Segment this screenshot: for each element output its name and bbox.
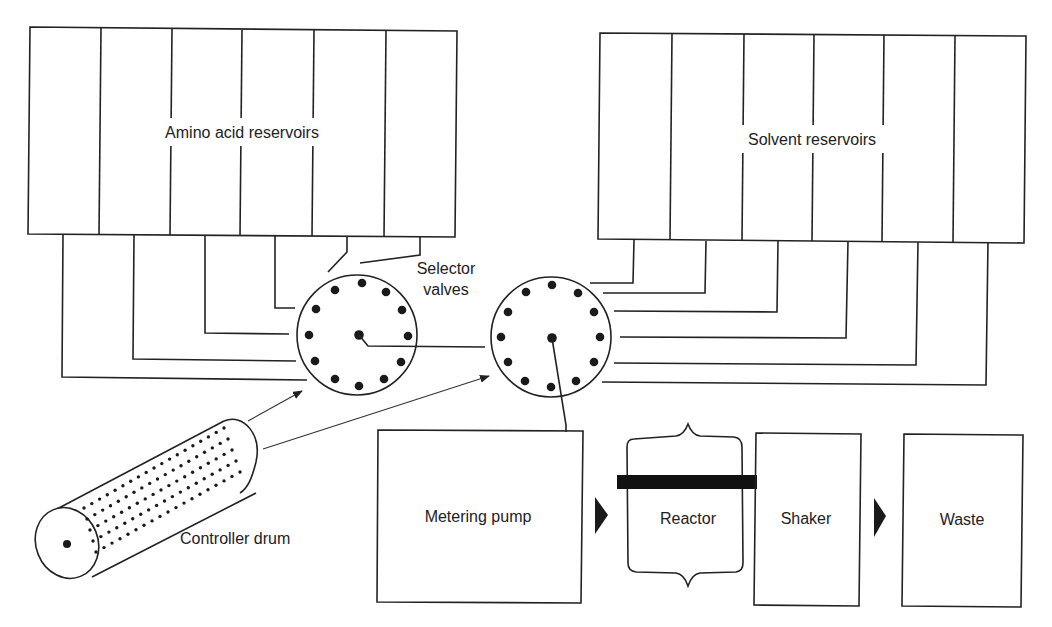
reactor-mount-bar xyxy=(617,475,757,489)
reactor: Reactor xyxy=(617,424,757,586)
svg-text:valves: valves xyxy=(423,281,468,298)
amino-acid-lines xyxy=(62,235,420,380)
metering-pump-label: Metering pump xyxy=(425,508,532,525)
waste: Waste xyxy=(902,434,1023,607)
selector-valves-label: Selector valves xyxy=(417,260,476,298)
svg-text:Selector: Selector xyxy=(417,260,476,277)
controller-drum: Controller drum xyxy=(25,419,290,588)
shaker: Shaker xyxy=(754,433,861,606)
waste-label: Waste xyxy=(940,511,985,528)
reactor-label: Reactor xyxy=(660,510,717,527)
amino-acid-reservoirs: Amino acid reservoirs xyxy=(28,27,457,237)
diagram-canvas: Amino acid reservoirs Solvent reservoirs xyxy=(0,0,1052,627)
selector-valve-2 xyxy=(491,277,611,432)
flow-arrow-shaker-to-waste xyxy=(874,498,886,537)
metering-pump: Metering pump xyxy=(377,430,583,603)
solvent-reservoirs: Solvent reservoirs xyxy=(598,33,1026,243)
solvent-reservoirs-label: Solvent reservoirs xyxy=(748,131,876,148)
solvent-lines xyxy=(590,240,988,385)
amino-acid-reservoirs-label: Amino acid reservoirs xyxy=(165,124,319,141)
flow-arrow-pump-to-reactor xyxy=(595,497,608,534)
controller-drum-label: Controller drum xyxy=(180,530,290,547)
synthesizer-schematic: Amino acid reservoirs Solvent reservoirs xyxy=(0,0,1052,627)
arrow-to-valve-2 xyxy=(263,376,489,449)
shaker-label: Shaker xyxy=(781,510,832,527)
arrow-to-valve-1 xyxy=(248,391,302,421)
